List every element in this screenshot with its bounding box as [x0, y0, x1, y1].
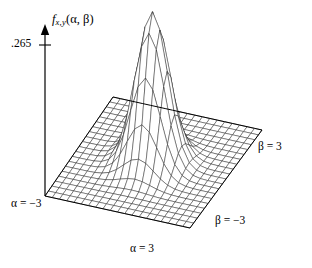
z-axis [39, 24, 51, 196]
alpha-min-label: α = −3 [11, 198, 42, 210]
wireframe-mesh [45, 12, 262, 228]
beta-min-label: β = −3 [215, 215, 245, 227]
z-axis-subscript: x,y [55, 17, 66, 27]
figure-container: fx,y(α, β) .265 α = −3 α = 3 β = −3 β = … [0, 0, 312, 268]
z-axis-tick-label: .265 [11, 38, 31, 50]
surface-plot-canvas [0, 0, 312, 268]
alpha-max-label: α = 3 [130, 243, 154, 255]
beta-max-label: β = 3 [258, 141, 282, 153]
z-axis-label: fx,y(α, β) [52, 13, 94, 27]
z-axis-arrowhead-icon [41, 24, 49, 35]
z-axis-arguments: (α, β) [66, 12, 93, 26]
